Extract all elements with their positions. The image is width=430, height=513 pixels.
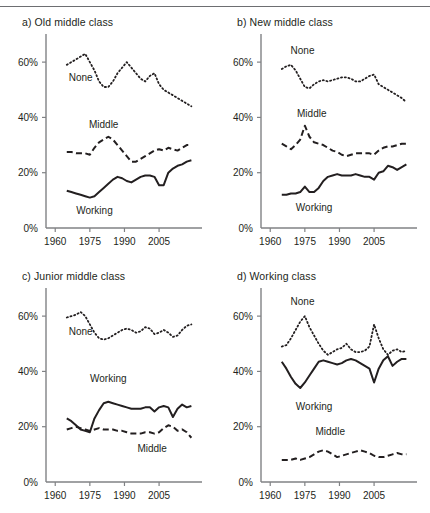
x-tick-label: 2005: [363, 490, 386, 501]
series-line-middle: [67, 137, 192, 162]
series-line-working: [282, 164, 407, 194]
series-line-none: [282, 316, 407, 355]
series-label-middle: Middle: [315, 426, 345, 437]
y-tick-label: 60%: [18, 57, 38, 68]
chart-svg: 0%20%40%60%1960197519902005NoneWorkingMi…: [215, 262, 430, 512]
panel-old-middle-class: a) Old middle class 0%20%40%60%196019751…: [0, 8, 215, 258]
y-tick-label: 60%: [233, 311, 253, 322]
x-tick-label: 1990: [328, 236, 351, 247]
y-tick-label: 20%: [18, 421, 38, 432]
plot-area-c: 0%20%40%60%1960197519902005NoneWorkingMi…: [0, 262, 215, 512]
series-line-middle: [282, 126, 407, 156]
series-line-working: [282, 356, 407, 388]
plot-area-a: 0%20%40%60%1960197519902005NoneMiddleWor…: [0, 8, 215, 258]
x-tick-label: 1975: [294, 490, 317, 501]
chart-svg: 0%20%40%60%1960197519902005NoneWorkingMi…: [0, 262, 215, 512]
series-label-working: Working: [90, 373, 127, 384]
y-tick-label: 40%: [233, 112, 253, 123]
plot-area-b: 0%20%40%60%1960197519902005NoneMiddleWor…: [215, 8, 430, 258]
y-tick-label: 0%: [239, 223, 254, 234]
chart-svg: 0%20%40%60%1960197519902005NoneMiddleWor…: [215, 8, 430, 258]
series-label-working: Working: [296, 202, 333, 213]
x-tick-label: 1975: [294, 236, 317, 247]
y-tick-label: 20%: [18, 167, 38, 178]
y-tick-label: 40%: [18, 112, 38, 123]
panel-junior-middle-class: c) Junior middle class 0%20%40%60%196019…: [0, 262, 215, 512]
series-label-middle: Middle: [297, 108, 327, 119]
panel-working-class: d) Working class 0%20%40%60%196019751990…: [215, 262, 430, 512]
chart-svg: 0%20%40%60%1960197519902005NoneMiddleWor…: [0, 8, 215, 258]
x-tick-label: 2005: [148, 236, 171, 247]
x-tick-label: 1990: [328, 490, 351, 501]
x-tick-label: 1960: [44, 490, 67, 501]
series-line-working: [67, 402, 192, 432]
y-tick-label: 40%: [18, 366, 38, 377]
series-line-none: [282, 65, 407, 102]
y-tick-label: 60%: [233, 57, 253, 68]
x-tick-label: 1975: [79, 236, 102, 247]
x-tick-label: 1960: [259, 490, 282, 501]
x-tick-label: 1960: [259, 236, 282, 247]
series-label-working: Working: [296, 401, 333, 412]
y-tick-label: 20%: [233, 421, 253, 432]
y-tick-label: 20%: [233, 167, 253, 178]
series-label-working: Working: [76, 205, 113, 216]
plot-area-d: 0%20%40%60%1960197519902005NoneWorkingMi…: [215, 262, 430, 512]
y-tick-label: 0%: [239, 477, 254, 488]
y-tick-label: 0%: [24, 477, 39, 488]
series-label-none: None: [291, 296, 315, 307]
x-tick-label: 2005: [148, 490, 171, 501]
y-tick-label: 0%: [24, 223, 39, 234]
series-label-none: None: [69, 326, 93, 337]
y-tick-label: 60%: [18, 311, 38, 322]
series-line-working: [67, 160, 192, 197]
figure-top-rule: [0, 6, 430, 7]
x-tick-label: 2005: [363, 236, 386, 247]
x-tick-label: 1975: [79, 490, 102, 501]
y-tick-label: 40%: [233, 366, 253, 377]
panel-new-middle-class: b) New middle class 0%20%40%60%196019751…: [215, 8, 430, 258]
series-label-middle: Middle: [89, 119, 119, 130]
x-tick-label: 1990: [113, 490, 136, 501]
series-line-middle: [282, 450, 407, 460]
x-tick-label: 1960: [44, 236, 67, 247]
x-tick-label: 1990: [113, 236, 136, 247]
series-label-middle: Middle: [137, 443, 167, 454]
series-label-none: None: [69, 72, 93, 83]
series-label-none: None: [291, 45, 315, 56]
